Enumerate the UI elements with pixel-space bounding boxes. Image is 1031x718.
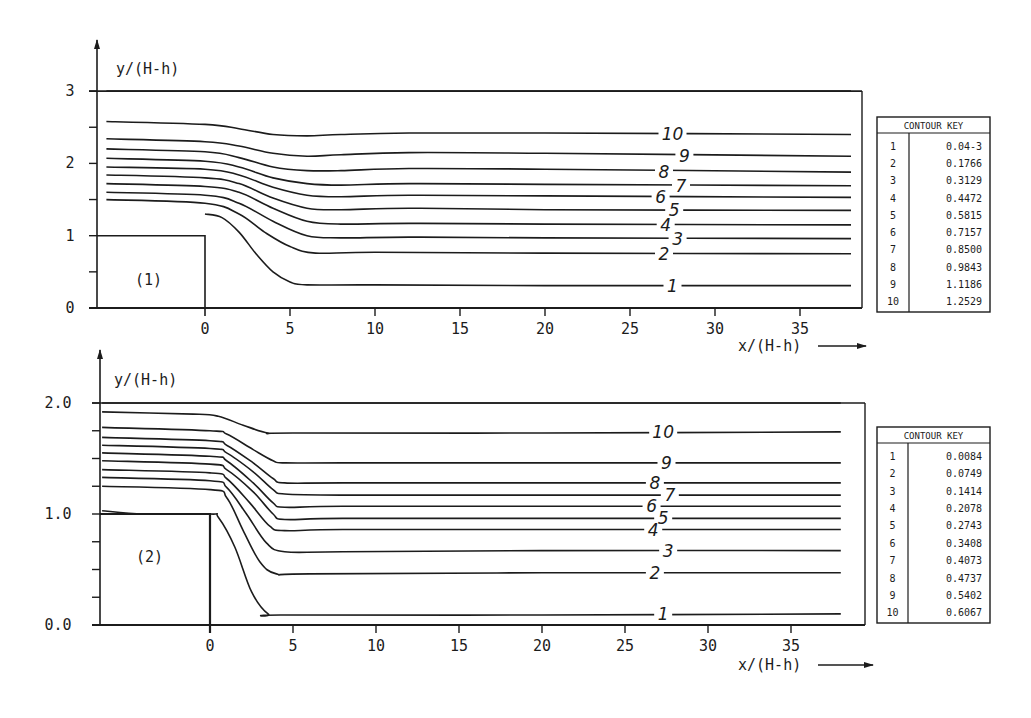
panel-1-x-tick-label: 10 (366, 320, 384, 338)
panel-2-key-value: 0.0749 (946, 468, 982, 479)
panel-2-contour-label-3: 3 (663, 541, 674, 561)
panel-2-key-id: 10 (886, 607, 898, 618)
panel-1-y-tick-label: 0 (65, 299, 74, 317)
panel-2-key-value: 0.5402 (946, 590, 982, 601)
panel-1-key-value: 0.9843 (946, 262, 982, 273)
panel-2-key-id: 4 (889, 503, 895, 514)
panel-2-id-label: (2) (136, 548, 163, 566)
panel-2-contour-label-7: 7 (664, 485, 675, 505)
panel-2-key-value: 0.6067 (946, 607, 982, 618)
panel-2-contour-8 (102, 437, 841, 483)
panel-2-key-value: 0.4737 (946, 573, 982, 584)
panel-1-key-title: CONTOUR KEY (904, 121, 964, 131)
panel-1: 12345678910 051015202530350123 y/(H-h) x… (65, 40, 990, 355)
panel-2-step-obstacle (100, 514, 210, 633)
panel-2-key-value: 0.1414 (946, 486, 982, 497)
panel-1-x-axis-title: x/(H-h) (738, 337, 801, 355)
panel-1-x-tick-label: 25 (621, 320, 639, 338)
panel-1-x-tick-label: 20 (536, 320, 554, 338)
panel-2-key-id: 1 (889, 451, 895, 462)
panel-1-key-id: 6 (890, 227, 896, 238)
panel-1-key-value: 0.5815 (946, 210, 982, 221)
panel-2-x-tick-label: 30 (699, 637, 717, 655)
panel-2-key-id: 9 (889, 590, 895, 601)
panel-1-x-tick-label: 30 (706, 320, 724, 338)
panel-2-key-title: CONTOUR KEY (904, 431, 964, 441)
panel-2-x-axis-title: x/(H-h) (738, 656, 801, 674)
panel-2-x-tick-label: 5 (288, 637, 297, 655)
panel-2-key-id: 6 (889, 538, 895, 549)
panel-1-x-tick-label: 0 (200, 320, 209, 338)
panel-1-contour-label-1: 1 (667, 276, 678, 296)
panel-1-contour-label-7: 7 (676, 176, 687, 196)
panel-2-key-value: 0.2743 (946, 520, 982, 531)
panel-2-key-id: 3 (889, 486, 895, 497)
panel-1-contour-label-5: 5 (669, 200, 680, 220)
panel-1-contour-label-6: 6 (655, 187, 666, 207)
panel-1-contour-7 (106, 158, 851, 186)
panel-1-key-id: 4 (890, 193, 896, 204)
panel-2-key-id: 8 (889, 573, 895, 584)
panel-1-key-id: 2 (890, 158, 896, 169)
panel-1-contour-label-9: 9 (679, 146, 690, 166)
panel-1-key-id: 8 (890, 262, 896, 273)
panel-2: 12345678910 051015202530350.01.02.0 y/(H… (44, 350, 990, 674)
panel-1-y-tick-label: 3 (65, 82, 74, 100)
panel-2-contour-1 (102, 511, 841, 616)
panel-1-key-value: 0.1766 (946, 158, 982, 169)
panel-1-contour-label-8: 8 (659, 162, 670, 182)
panel-2-contour-3 (102, 477, 841, 552)
panel-1-x-tick-label: 5 (285, 320, 294, 338)
panel-1-contours: 12345678910 (106, 91, 851, 295)
panel-1-key-value: 0.04-3 (946, 141, 982, 152)
panel-2-contour-label-9: 9 (661, 453, 672, 473)
panel-2-key-id: 2 (889, 468, 895, 479)
panel-1-key-id: 7 (890, 244, 896, 255)
panel-2-x-tick-label: 10 (367, 637, 385, 655)
panel-1-y-axis-title: y/(H-h) (116, 60, 179, 78)
panel-2-contour-label-5: 5 (658, 508, 669, 528)
panel-1-key-value: 0.8500 (946, 244, 982, 255)
panel-2-x-tick-label: 15 (450, 637, 468, 655)
panel-2-contour-7 (102, 445, 841, 495)
panel-2-x-tick-label: 35 (782, 637, 800, 655)
panel-2-contour-4 (102, 470, 841, 531)
panel-1-key-id: 1 (890, 141, 896, 152)
panel-2-contour-label-6: 6 (646, 496, 657, 516)
panel-1-key-value: 0.4472 (946, 193, 982, 204)
panel-1-key-id: 9 (890, 279, 896, 290)
panel-1-contour-4 (106, 184, 851, 225)
panel-1-key-value: 1.1186 (946, 279, 982, 290)
panel-2-key-id: 7 (889, 555, 895, 566)
panel-1-y-tick-label: 2 (65, 154, 74, 172)
panel-1-y-tick-label: 1 (65, 227, 74, 245)
panel-1-key-value: 1.2529 (946, 296, 982, 307)
panel-1-contour-label-3: 3 (672, 229, 683, 249)
contour-figure: 12345678910 051015202530350123 y/(H-h) x… (0, 0, 1031, 718)
panel-2-y-axis-title: y/(H-h) (114, 371, 177, 389)
panel-2-contour-key: CONTOUR KEY10.008420.074930.141440.20785… (877, 427, 990, 623)
panel-2-contour-label-10: 10 (652, 422, 674, 442)
panel-1-key-id: 10 (887, 296, 899, 307)
panel-1-id-label: (1) (135, 271, 162, 289)
panel-2-y-tick-label: 1.0 (44, 505, 71, 523)
panel-1-key-id: 5 (890, 210, 896, 221)
panel-1-key-id: 3 (890, 175, 896, 186)
panel-2-key-value: 0.3408 (946, 538, 982, 549)
panel-2-y-tick-label: 2.0 (44, 394, 71, 412)
panel-2-contour-label-1: 1 (658, 604, 669, 624)
panel-2-key-id: 5 (889, 520, 895, 531)
panel-2-contour-label-8: 8 (649, 473, 660, 493)
panel-1-contour-label-10: 10 (662, 124, 684, 144)
panel-1-contour-10 (106, 122, 851, 136)
panel-2-key-value: 0.2078 (946, 503, 982, 514)
panel-2-contour-2 (102, 486, 841, 575)
panel-2-axes (92, 350, 865, 633)
panel-2-key-value: 0.4073 (946, 555, 982, 566)
panel-1-contour-key: CONTOUR KEY10.04-320.176630.312940.44725… (877, 117, 990, 312)
panel-1-key-value: 0.3129 (946, 175, 982, 186)
panel-2-x-tick-label: 0 (205, 637, 214, 655)
panel-2-y-tick-label: 0.0 (44, 616, 71, 634)
panel-2-x-tick-label: 25 (616, 637, 634, 655)
panel-2-contour-label-2: 2 (649, 563, 660, 583)
